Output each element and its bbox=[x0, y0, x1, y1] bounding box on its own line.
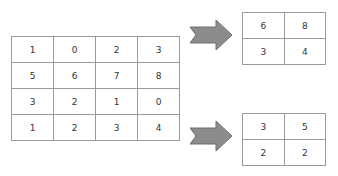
input-matrix: 1 0 2 3 5 6 7 8 3 2 1 0 1 2 3 4 bbox=[11, 36, 180, 141]
matrix-cell: 8 bbox=[284, 13, 326, 39]
matrix-row: 1 2 3 4 bbox=[12, 115, 180, 141]
matrix-row: 6 8 bbox=[243, 13, 326, 39]
matrix-cell: 3 bbox=[12, 89, 54, 115]
matrix-row: 2 2 bbox=[243, 140, 326, 166]
matrix-cell: 3 bbox=[243, 39, 285, 65]
matrix-row: 3 4 bbox=[243, 39, 326, 65]
matrix-row: 1 0 2 3 bbox=[12, 37, 180, 63]
right-arrow-icon bbox=[189, 120, 233, 152]
output-matrix-bottom: 3 5 2 2 bbox=[242, 113, 326, 166]
matrix-cell: 2 bbox=[54, 89, 96, 115]
matrix-cell: 3 bbox=[96, 115, 138, 141]
matrix-cell: 1 bbox=[12, 37, 54, 63]
matrix-cell: 2 bbox=[96, 37, 138, 63]
matrix-cell: 3 bbox=[138, 37, 180, 63]
right-arrow-icon bbox=[189, 19, 233, 51]
matrix-cell: 0 bbox=[138, 89, 180, 115]
matrix-cell: 0 bbox=[54, 37, 96, 63]
matrix-cell: 6 bbox=[54, 63, 96, 89]
matrix-row: 5 6 7 8 bbox=[12, 63, 180, 89]
matrix-cell: 1 bbox=[96, 89, 138, 115]
matrix-cell: 5 bbox=[12, 63, 54, 89]
matrix-row: 3 2 1 0 bbox=[12, 89, 180, 115]
matrix-cell: 2 bbox=[284, 140, 326, 166]
matrix-cell: 3 bbox=[243, 114, 285, 140]
matrix-cell: 2 bbox=[243, 140, 285, 166]
matrix-row: 3 5 bbox=[243, 114, 326, 140]
matrix-cell: 8 bbox=[138, 63, 180, 89]
matrix-cell: 1 bbox=[12, 115, 54, 141]
matrix-cell: 7 bbox=[96, 63, 138, 89]
output-matrix-top: 6 8 3 4 bbox=[242, 12, 326, 65]
matrix-cell: 2 bbox=[54, 115, 96, 141]
matrix-cell: 6 bbox=[243, 13, 285, 39]
matrix-cell: 4 bbox=[284, 39, 326, 65]
matrix-cell: 4 bbox=[138, 115, 180, 141]
matrix-cell: 5 bbox=[284, 114, 326, 140]
